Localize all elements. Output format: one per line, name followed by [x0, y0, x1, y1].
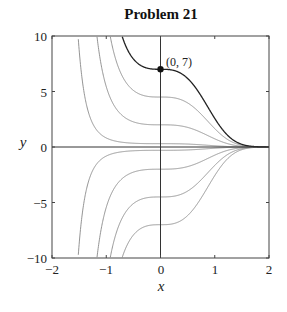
- chart: Problem 21 10 5 0 −5 −10 −2 −1 0 1 2 x y…: [0, 0, 287, 312]
- x-tick-label: 2: [266, 262, 273, 277]
- solution-curve: [110, 37, 269, 147]
- x-axis-label: x: [157, 278, 165, 294]
- x-tick-label: 0: [158, 262, 165, 277]
- x-tick-label: −2: [45, 262, 59, 277]
- solution-curve: [97, 37, 269, 147]
- y-tick-label: −5: [33, 196, 47, 211]
- x-tick-label: −1: [99, 262, 113, 277]
- solution-curve: [97, 147, 269, 257]
- y-axis-label: y: [18, 134, 27, 150]
- y-tick-label: 5: [41, 85, 48, 100]
- solution-curve: [110, 147, 269, 257]
- initial-point-marker: [157, 66, 163, 72]
- solution-curve: [78, 147, 269, 255]
- y-tick-label: −10: [27, 251, 47, 266]
- y-tick-label: 10: [34, 29, 47, 44]
- chart-title: Problem 21: [124, 6, 197, 22]
- x-tick-label: 1: [212, 262, 219, 277]
- initial-point-label: (0, 7): [166, 55, 192, 69]
- y-tick-label: 0: [41, 140, 48, 155]
